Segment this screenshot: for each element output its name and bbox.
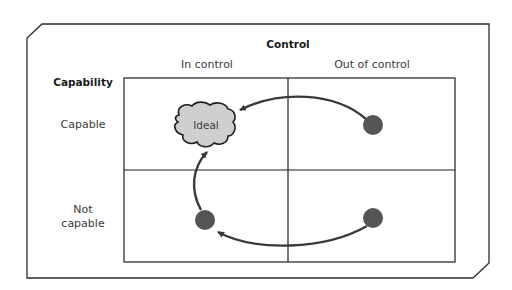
dot-not-capable-in-control <box>195 210 215 230</box>
arrow-out-of-control-to-ideal <box>240 97 366 119</box>
column-label-out-of-control: Out of control <box>334 58 410 71</box>
control-capability-diagram <box>0 0 512 290</box>
dot-not-capable-out-of-control <box>363 208 383 228</box>
ideal-label: Ideal <box>193 119 219 131</box>
arrow-bottom-right-to-bottom-left <box>218 226 367 246</box>
control-axis-title: Control <box>266 38 309 50</box>
capability-axis-title: Capability <box>53 76 113 88</box>
dot-capable-out-of-control <box>363 115 383 135</box>
row-label-not-capable-line2: capable <box>61 217 104 230</box>
arrow-bottom-left-to-ideal <box>194 152 207 210</box>
column-label-in-control: In control <box>181 58 233 71</box>
row-label-capable: Capable <box>61 118 106 131</box>
outer-frame <box>27 24 489 278</box>
row-label-not-capable-line1: Not <box>73 203 92 216</box>
